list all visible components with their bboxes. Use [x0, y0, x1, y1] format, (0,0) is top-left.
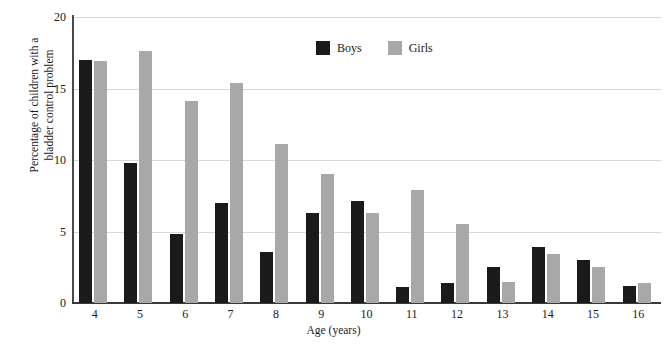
- bar-group: [163, 17, 208, 303]
- bar-girls-age-11: [411, 190, 424, 303]
- x-axis-tick-label: 5: [119, 307, 161, 321]
- bar-boys-age-15: [577, 260, 590, 303]
- bar-boys-age-14: [532, 247, 545, 303]
- legend-swatch-girls: [388, 41, 402, 55]
- x-axis-tick-label: 10: [346, 307, 388, 321]
- bar-girls-age-7: [230, 83, 243, 303]
- y-axis-tick-label: 5: [40, 226, 66, 238]
- x-axis-tick-labels: 45678910111213141516: [72, 307, 661, 325]
- bar-girls-age-9: [321, 174, 334, 303]
- bar-boys-age-4: [79, 60, 92, 303]
- x-axis-tick-label: 11: [391, 307, 433, 321]
- bar-girls-age-13: [502, 282, 515, 303]
- x-axis-tick-label: 15: [572, 307, 614, 321]
- bar-girls-age-4: [94, 61, 107, 303]
- bar-girls-age-6: [185, 101, 198, 303]
- bar-group: [344, 17, 389, 303]
- bar-boys-age-5: [124, 163, 137, 303]
- bar-boys-age-16: [623, 286, 636, 303]
- bar-boys-age-6: [170, 234, 183, 303]
- bar-group: [525, 17, 570, 303]
- bar-girls-age-5: [139, 51, 152, 303]
- bar-group: [389, 17, 434, 303]
- bar-group: [570, 17, 615, 303]
- bar-boys-age-12: [441, 283, 454, 303]
- y-axis-tick-label: 10: [40, 154, 66, 166]
- bar-group: [117, 17, 162, 303]
- legend-item-girls: Girls: [388, 41, 433, 55]
- y-axis-tick-label: 20: [40, 11, 66, 23]
- bar-girls-age-10: [366, 213, 379, 303]
- bar-group: [299, 17, 344, 303]
- bar-boys-age-7: [215, 203, 228, 303]
- y-axis-tick-label: 15: [40, 83, 66, 95]
- legend-label-girls: Girls: [409, 41, 433, 55]
- x-axis-tick-label: 9: [300, 307, 342, 321]
- bar-group: [434, 17, 479, 303]
- legend-label-boys: Boys: [337, 41, 362, 55]
- bar-group: [72, 17, 117, 303]
- x-axis-title: Age (years): [0, 324, 667, 336]
- bar-chart: Percentage of children with a bladder co…: [0, 0, 667, 345]
- bar-boys-age-8: [260, 252, 273, 303]
- legend-item-boys: Boys: [316, 41, 362, 55]
- bar-group: [616, 17, 661, 303]
- chart-legend: BoysGirls: [316, 41, 433, 55]
- bar-girls-age-8: [275, 144, 288, 303]
- x-axis-tick-label: 14: [527, 307, 569, 321]
- bar-boys-age-11: [396, 287, 409, 303]
- y-axis-tick-labels: 05101520: [38, 0, 66, 345]
- x-axis-tick-label: 12: [436, 307, 478, 321]
- bar-girls-age-15: [592, 267, 605, 303]
- bar-girls-age-16: [638, 283, 651, 303]
- x-axis-tick-label: 13: [481, 307, 523, 321]
- bar-boys-age-9: [306, 213, 319, 303]
- legend-swatch-boys: [316, 41, 330, 55]
- x-axis-tick-label: 8: [255, 307, 297, 321]
- x-axis-tick-label: 7: [210, 307, 252, 321]
- bar-girls-age-12: [456, 224, 469, 303]
- bar-boys-age-13: [487, 267, 500, 303]
- y-axis-tick-label: 0: [40, 297, 66, 309]
- x-axis-tick-label: 4: [74, 307, 116, 321]
- x-axis-tick-label: 16: [617, 307, 659, 321]
- x-axis-tick-label: 6: [164, 307, 206, 321]
- bar-girls-age-14: [547, 254, 560, 303]
- bar-group: [480, 17, 525, 303]
- bar-group: [208, 17, 253, 303]
- bar-group: [253, 17, 298, 303]
- bar-boys-age-10: [351, 201, 364, 303]
